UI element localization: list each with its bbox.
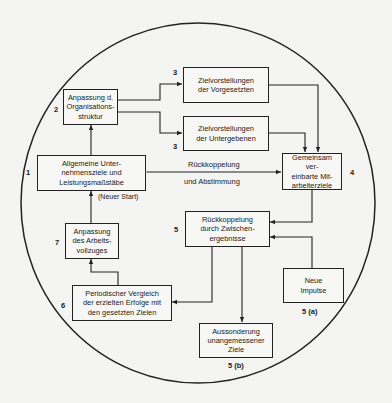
step-number-5a: 5 (a) bbox=[302, 307, 317, 316]
node-text: Periodischer Vergleich der erzielten Erf… bbox=[83, 289, 161, 317]
node-text: Allgemeine Unter- nehmensziele und Leist… bbox=[59, 159, 124, 187]
feedback-label: Rückkoppelung bbox=[188, 160, 240, 169]
coordination-label: und Abstimmung bbox=[184, 177, 240, 186]
node-text: Gemeinsam ver- einbarte Mit- arbeiterzie… bbox=[285, 153, 339, 190]
node-superior-goals: Zielvorstellungen der Vorgesetzten bbox=[183, 67, 269, 103]
step-number-7: 7 bbox=[55, 238, 59, 247]
step-number-5: 5 bbox=[174, 225, 178, 234]
node-adapt-work: Anpassung des Arbeits- vollzuges bbox=[65, 223, 119, 259]
node-subordinate-goals: Zielvorstellungen der Untergebenen bbox=[183, 116, 269, 151]
node-new-impulses: Neue Impulse bbox=[283, 268, 344, 303]
node-text: Rückkoppelung durch Zwischen- ergebnisse bbox=[200, 215, 254, 243]
step-number-6: 6 bbox=[61, 301, 65, 310]
node-agreed-goals: Gemeinsam ver- einbarte Mit- arbeiterzie… bbox=[282, 153, 342, 190]
node-goals-and-standards: Allgemeine Unter- nehmensziele und Leist… bbox=[37, 155, 146, 191]
node-adapt-organization: Anpassung d. Organisations- struktur bbox=[63, 89, 118, 125]
diagram-connectors bbox=[0, 0, 392, 403]
node-text: Anpassung d. Organisations- struktur bbox=[66, 93, 114, 121]
step-number-3a: 3 bbox=[173, 68, 177, 77]
node-text: Anpassung des Arbeits- vollzuges bbox=[72, 227, 111, 255]
step-number-3b: 3 bbox=[173, 142, 177, 151]
node-interim-feedback: Rückkoppelung durch Zwischen- ergebnisse bbox=[185, 211, 270, 247]
node-text: Aussonderung unangemessener Ziele bbox=[207, 327, 264, 355]
node-text: Zielvorstellungen der Untergebenen bbox=[196, 124, 256, 142]
step-number-5b: 5 (b) bbox=[228, 361, 244, 370]
step-number-4: 4 bbox=[350, 168, 354, 177]
step-number-2: 2 bbox=[54, 105, 58, 114]
node-discard-goals: Aussonderung unangemessener Ziele bbox=[199, 323, 273, 358]
restart-label: (Neuer Start) bbox=[98, 193, 138, 200]
node-text: Neue Impulse bbox=[301, 276, 327, 294]
node-text: Zielvorstellungen der Vorgesetzten bbox=[198, 76, 254, 94]
step-number-1: 1 bbox=[26, 168, 30, 177]
node-periodic-comparison: Periodischer Vergleich der erzielten Erf… bbox=[72, 285, 172, 321]
